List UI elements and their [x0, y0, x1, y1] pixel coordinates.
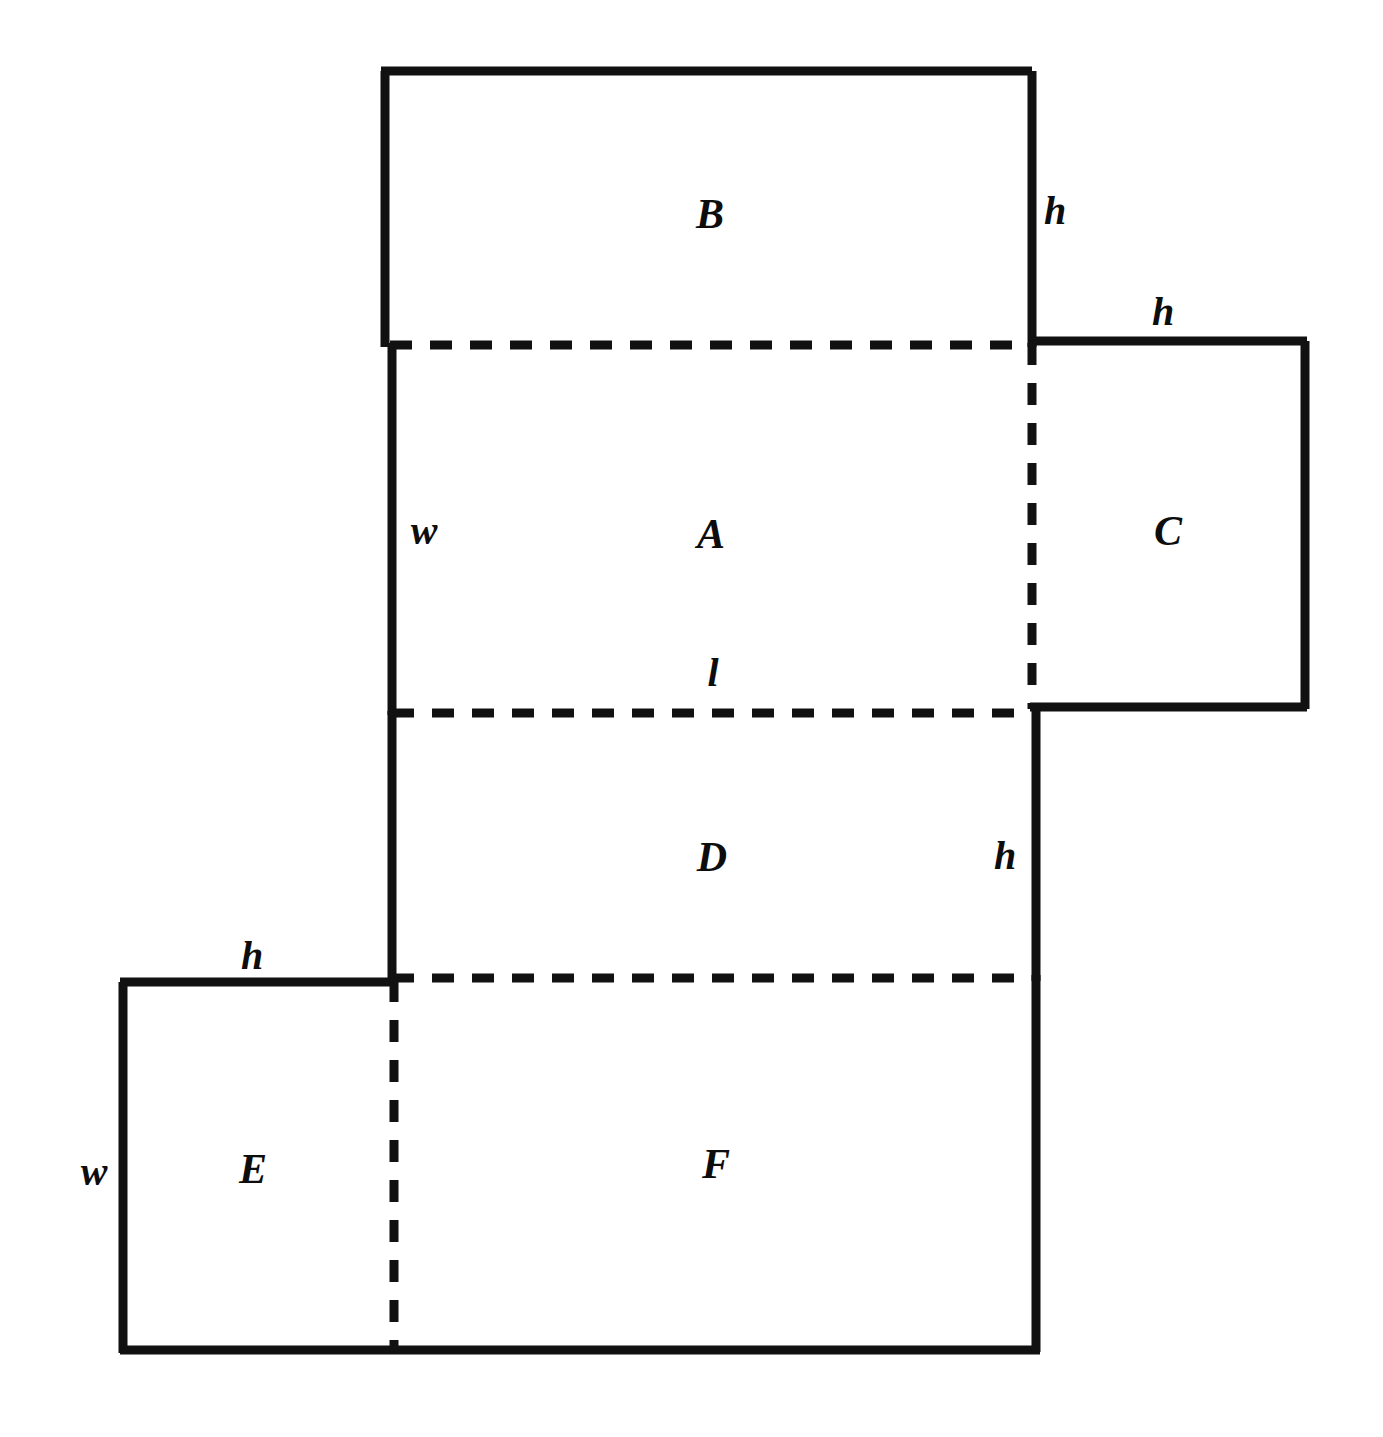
face-label-a: A	[697, 513, 725, 555]
diagram-page: BACDEF hhwlhhw	[0, 0, 1383, 1437]
box-net-svg	[0, 0, 1383, 1437]
dimension-label-h-b-right: h	[1044, 191, 1066, 231]
dimension-label-w-a-left: w	[411, 511, 438, 551]
face-label-d: D	[697, 836, 727, 878]
face-label-f: F	[702, 1143, 730, 1185]
dimension-label-w-e-left: w	[81, 1152, 108, 1192]
face-label-c: C	[1154, 510, 1182, 552]
face-label-e: E	[239, 1148, 267, 1190]
dimension-label-h-c-top: h	[1152, 292, 1174, 332]
dimension-label-l-a-bottom: l	[707, 653, 718, 693]
face-label-b: B	[696, 193, 724, 235]
dimension-label-h-d-right: h	[994, 836, 1016, 876]
dimension-label-h-e-top: h	[241, 936, 263, 976]
